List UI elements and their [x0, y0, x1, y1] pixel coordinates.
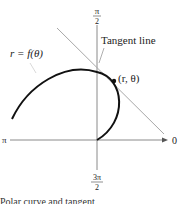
caption: Polar curve and tangent	[0, 196, 120, 204]
polar-curve	[12, 70, 119, 140]
label-tangent: Tangent line	[101, 34, 156, 46]
label-curve: r = f(θ)	[10, 47, 43, 60]
tangent-leader	[99, 48, 104, 63]
polar-diagram: π 2 Tangent line r = f(θ) (r, θ) π 0 3π …	[0, 0, 180, 204]
arrow-icon	[162, 138, 168, 143]
label-zero: 0	[172, 135, 177, 146]
label-point: (r, θ)	[118, 72, 140, 85]
point-marker	[112, 79, 116, 83]
label-pi-over-2-num: π	[95, 6, 100, 16]
label-pi: π	[2, 135, 7, 145]
label-3pi-over-2-num: 3π	[93, 173, 101, 182]
label-pi-over-2-den: 2	[95, 17, 99, 26]
curve-leader	[30, 63, 36, 73]
label-3pi-over-2-den: 2	[95, 183, 99, 192]
